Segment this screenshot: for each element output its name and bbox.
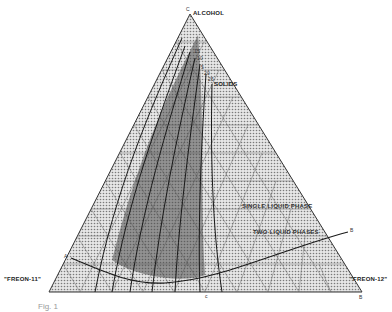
vertex-alcohol-label: ALCOHOL [193,10,224,16]
two-liquid-phases-label: TWO LIQUID PHASES [253,229,309,236]
vertex-b-letter: B [359,294,363,300]
curve-label-solids: SOLIDS [214,81,238,87]
bottom-mark-c: c [205,293,208,299]
vertex-freon11-label: "FREON-11" [4,276,41,282]
figure-caption: Fig. 1 [38,302,58,311]
point-a-label: A [64,253,68,259]
vertex-c-letter: C [186,6,190,12]
single-liquid-phase-label: SINGLE LIQUID PHASE [242,203,302,210]
curve-label-15: 15 [194,48,200,54]
point-b-label: B [350,227,354,233]
curve-label-10: 10 [197,55,203,61]
vertex-freon12-label: "FREON-12" [350,276,387,282]
